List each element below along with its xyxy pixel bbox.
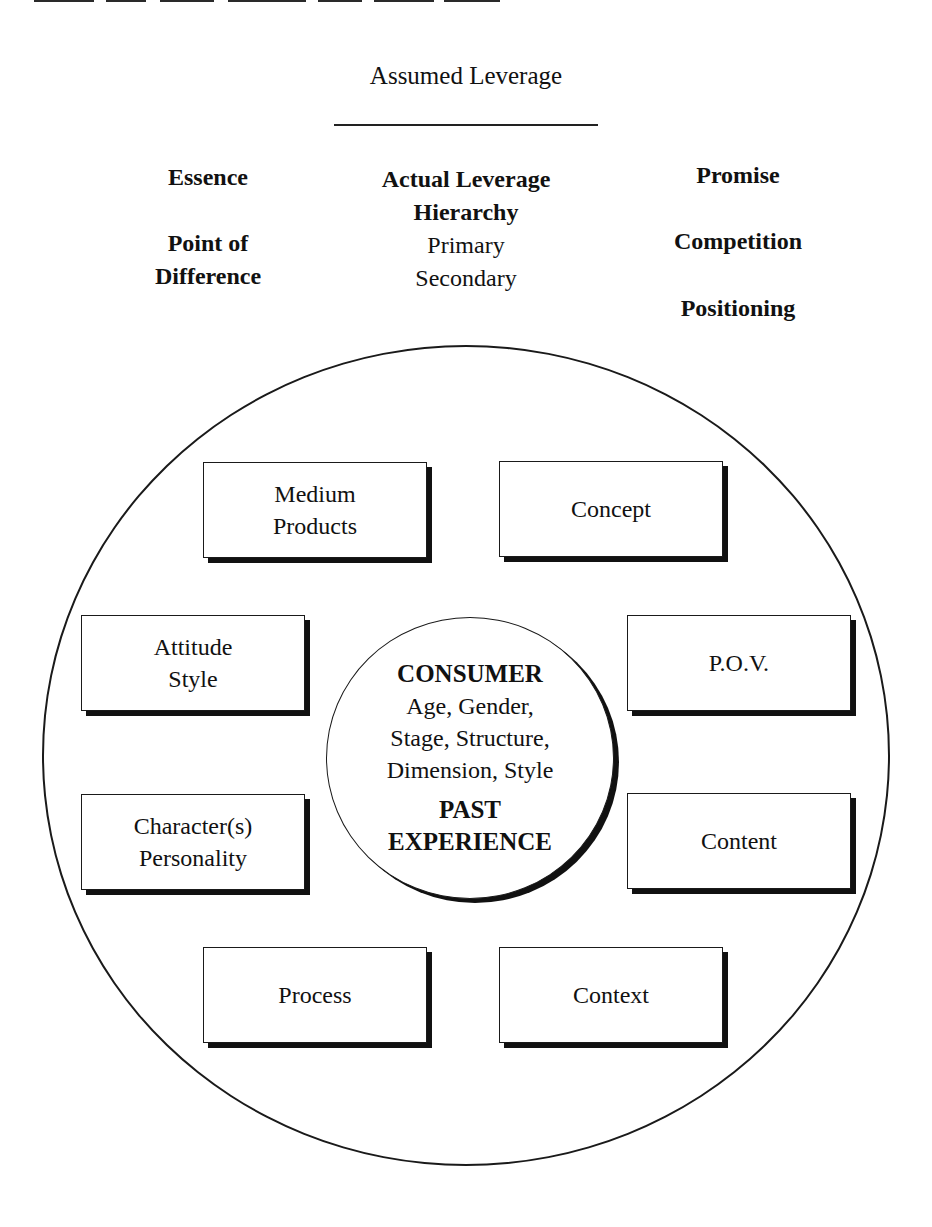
- past-experience-line: EXPERIENCE: [388, 826, 552, 858]
- consumer-circle: CONSUMER Age, Gender, Stage, Structure, …: [326, 617, 614, 899]
- label-point-of: Point of: [118, 227, 298, 259]
- consumer-line: Stage, Structure,: [390, 722, 549, 754]
- label-competition: Competition: [648, 225, 828, 257]
- box-label: Content: [701, 825, 777, 857]
- box-label: Personality: [139, 842, 247, 874]
- box-process: Process: [203, 947, 427, 1043]
- consumer-line: Dimension, Style: [387, 754, 554, 786]
- box-label: Character(s): [134, 810, 253, 842]
- box-label: Products: [273, 510, 357, 542]
- box-character-personality: Character(s) Personality: [81, 794, 305, 890]
- box-label: P.O.V.: [709, 647, 769, 679]
- consumer-line: Age, Gender,: [406, 690, 534, 722]
- box-content: Content: [627, 793, 851, 889]
- box-label: Process: [278, 979, 351, 1011]
- label-difference: Difference: [118, 260, 298, 292]
- past-experience-line: PAST: [439, 794, 501, 826]
- label-hierarchy: Hierarchy: [336, 196, 596, 228]
- box-pov: P.O.V.: [627, 615, 851, 711]
- box-medium-products: Medium Products: [203, 462, 427, 558]
- clipped-figure-caption: [34, 0, 504, 6]
- label-primary: Primary: [336, 229, 596, 261]
- box-attitude-style: Attitude Style: [81, 615, 305, 711]
- label-essence: Essence: [118, 161, 298, 193]
- box-label: Style: [168, 663, 217, 695]
- title-underline: [334, 124, 598, 126]
- box-label: Concept: [571, 493, 651, 525]
- label-secondary: Secondary: [336, 262, 596, 294]
- consumer-heading: CONSUMER: [397, 658, 543, 690]
- box-label: Attitude: [154, 631, 233, 663]
- diagram-title: Assumed Leverage: [0, 62, 932, 90]
- box-label: Context: [573, 979, 649, 1011]
- label-positioning: Positioning: [648, 292, 828, 324]
- box-label: Medium: [274, 478, 355, 510]
- label-promise: Promise: [648, 159, 828, 191]
- label-actual-leverage: Actual Leverage: [336, 163, 596, 195]
- box-concept: Concept: [499, 461, 723, 557]
- box-context: Context: [499, 947, 723, 1043]
